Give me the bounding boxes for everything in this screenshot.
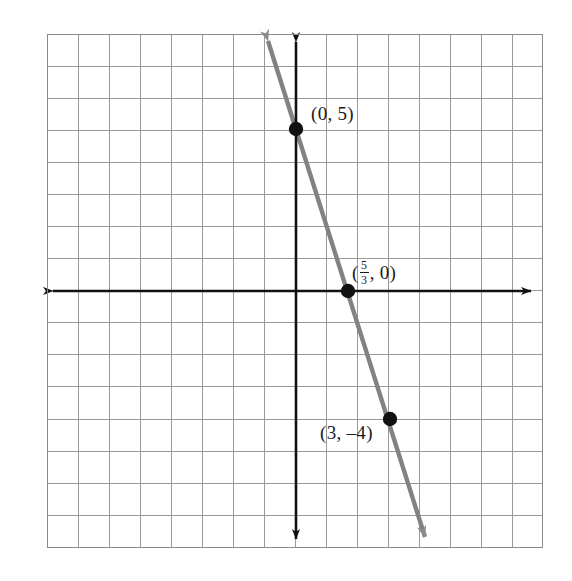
paren-open: ( (352, 263, 359, 282)
graph-figure: (0, 5) ( 5 3 , 0) (3, –4) (0, 0, 572, 581)
point-label-3-neg4: (3, –4) (320, 423, 373, 442)
point-label-5over3-0: ( 5 3 , 0) (352, 259, 396, 286)
paren-close-with-zero: , 0) (370, 263, 397, 282)
point-marker-0-5 (289, 122, 303, 136)
fraction-numerator: 5 (360, 259, 368, 271)
point-marker-3-neg4 (383, 412, 397, 426)
point-label-0-5: (0, 5) (311, 104, 354, 123)
fraction-five-thirds: 5 3 (360, 259, 369, 286)
coordinate-plane-svg (0, 0, 572, 581)
fraction-denominator: 3 (360, 274, 368, 286)
